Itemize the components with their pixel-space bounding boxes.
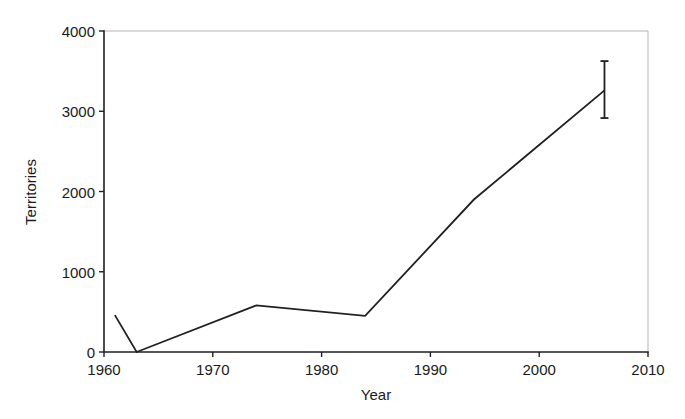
y-axis-title: Territories [22, 159, 39, 225]
y-tick-label: 1000 [62, 263, 95, 280]
chart-plot-area [0, 0, 685, 419]
y-tick-label: 2000 [62, 183, 95, 200]
error-bar-group [600, 61, 608, 118]
x-tick-label: 1970 [196, 361, 229, 378]
series-line-0 [115, 90, 605, 352]
x-tick-label: 1980 [305, 361, 338, 378]
x-axis-title: Year [361, 386, 391, 403]
chart-figure: 01000200030004000 1960197019801990200020… [0, 0, 685, 419]
y-tick-label: 0 [87, 344, 95, 361]
y-tick-label: 4000 [62, 23, 95, 40]
x-tick-label: 1990 [414, 361, 447, 378]
x-tick-label: 1960 [87, 361, 120, 378]
x-tick-label: 2010 [631, 361, 664, 378]
data-line-series [115, 90, 605, 352]
x-tick-label: 2000 [523, 361, 556, 378]
error-bar-0 [600, 61, 608, 118]
y-tick-label: 3000 [62, 103, 95, 120]
